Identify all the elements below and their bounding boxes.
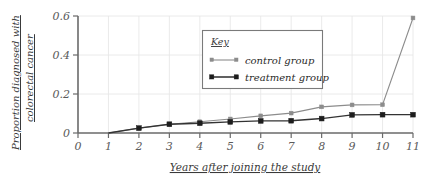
legend-swatch-marker-control-left (210, 58, 213, 61)
x-axis-tick-labels: 01234567891011 (75, 140, 421, 153)
x-tick-label: 11 (406, 140, 420, 153)
y-axis-tick-labels: 00.20.40.6 (53, 10, 71, 140)
data-point-marker (380, 112, 385, 117)
data-point-marker (320, 105, 324, 109)
legend: Key control group treatment group (203, 31, 330, 89)
data-point-marker (381, 103, 385, 107)
data-point-marker (197, 121, 202, 126)
x-tick-label: 4 (195, 140, 203, 153)
legend-swatch-marker-treatment-left (210, 75, 214, 79)
legend-swatch-marker-treatment-right (234, 75, 238, 79)
x-tick-label: 2 (134, 140, 142, 153)
data-point-marker (411, 16, 415, 20)
x-tick-label: 1 (105, 140, 112, 153)
legend-label-treatment-group: treatment group (245, 72, 329, 83)
y-axis-title-line2: colorectal cancer (24, 33, 35, 122)
y-tick-label: 0.6 (53, 10, 71, 23)
legend-title: Key (210, 36, 229, 47)
data-point-marker (350, 103, 354, 107)
x-tick-label: 3 (166, 140, 173, 153)
x-tick-label: 6 (257, 140, 264, 153)
data-point-marker (319, 116, 324, 121)
x-tick-label: 7 (288, 140, 295, 153)
x-tick-label: 8 (318, 140, 325, 153)
data-point-marker (258, 119, 263, 124)
data-point-marker (289, 111, 293, 115)
data-point-marker (350, 112, 355, 117)
line-chart: 00.20.40.6 01234567891011 Key control gr… (0, 0, 421, 181)
legend-swatch-marker-control-right (235, 58, 238, 61)
x-tick-label: 0 (75, 140, 82, 153)
data-point-marker (411, 112, 416, 117)
x-axis-title: Years after joining the study (170, 161, 322, 173)
y-tick-label: 0.2 (53, 88, 71, 101)
chart-figure: 00.20.40.6 01234567891011 Key control gr… (0, 0, 421, 181)
y-axis-title-line1: Proportion diagnosed with (10, 15, 21, 151)
data-point-marker (167, 122, 172, 127)
x-tick-label: 5 (227, 140, 234, 153)
y-tick-label: 0 (63, 127, 70, 140)
legend-label-control-group: control group (245, 55, 315, 66)
data-point-marker (289, 118, 294, 123)
data-point-marker (259, 114, 263, 118)
y-axis-title: Proportion diagnosed with colorectal can… (10, 15, 35, 151)
data-point-marker (137, 126, 142, 131)
y-tick-label: 0.4 (53, 49, 71, 62)
x-tick-label: 10 (376, 140, 390, 153)
data-point-marker (228, 119, 233, 124)
x-tick-label: 9 (349, 140, 356, 153)
